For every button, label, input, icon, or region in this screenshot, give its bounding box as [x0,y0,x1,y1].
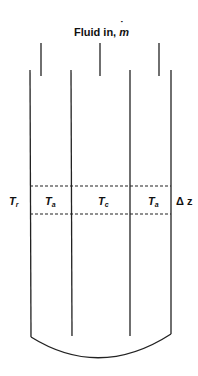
label-T-a-right: Ta [148,195,159,208]
vessel-bottom [31,334,171,358]
reactor-diagram: Fluid in, m ˙ Tr Ta Tc Ta Δ z [0,0,198,376]
label-T-r: Tr [9,195,20,208]
mass-flow-dot: ˙ [120,19,124,31]
outer-wall-left [30,70,31,337]
inner-wall-left [71,70,72,336]
label-T-c: Tc [98,195,109,208]
label-delta-z: Δ z [176,195,193,207]
label-T-a-left: Ta [45,195,56,208]
